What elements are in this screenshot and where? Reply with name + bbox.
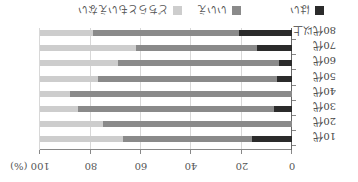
y-tick [292, 115, 296, 116]
x-tick [241, 150, 242, 154]
bar-8 [40, 30, 292, 36]
category-label: 40代 [296, 85, 336, 100]
category-label: 60代 [296, 55, 336, 70]
legend: はい いいえ どちらともいえない [0, 2, 358, 18]
bar-2 [40, 121, 292, 127]
bar-segment [252, 136, 292, 142]
bar-1 [40, 136, 292, 142]
y-tick [292, 39, 296, 40]
x-tick-label: 60 [135, 161, 148, 172]
category-label: 50代 [296, 70, 336, 85]
bar-segment [257, 45, 292, 51]
y-tick [292, 130, 296, 131]
category-label: 70代 [296, 39, 336, 54]
bar-6 [40, 61, 292, 67]
legend-swatch-yes [315, 6, 324, 15]
x-tick-label: 100 (%) [10, 161, 50, 172]
legend-label-neutral: どちらともいえない [78, 3, 168, 18]
category-label: 30代 [296, 100, 336, 115]
x-tick [190, 150, 191, 154]
x-tick-label: 20 [236, 161, 249, 172]
y-tick [292, 70, 296, 71]
y-tick [292, 85, 296, 86]
x-tick [39, 150, 40, 154]
plot-area: 0 20 40 60 80 100 (%) 10代20代30代40代50代60代… [40, 28, 292, 150]
bar-4 [40, 91, 292, 97]
y-tick [292, 145, 296, 146]
x-tick-label: 80 [85, 161, 98, 172]
category-label: 10代 [296, 130, 336, 145]
category-label: 80代以上 [296, 24, 336, 39]
bar-3 [40, 106, 292, 112]
bar-segment [40, 76, 98, 82]
x-axis: 0 20 40 60 80 100 (%) [40, 149, 292, 150]
bar-segment [239, 30, 292, 36]
bar-segment [277, 76, 292, 82]
category-label: 20代 [296, 115, 336, 130]
stacked-bar-chart: はい いいえ どちらともいえない 0 20 40 60 80 100 [0, 0, 358, 182]
x-tick [90, 150, 91, 154]
legend-label-no: いいえ [197, 3, 227, 18]
x-tick [140, 150, 141, 154]
bar-5 [40, 76, 292, 82]
bar-segment [40, 45, 136, 51]
bar-segment [40, 61, 118, 67]
x-tick [291, 150, 292, 154]
bar-segment [98, 76, 277, 82]
legend-swatch-no [232, 6, 241, 15]
bar-segment [40, 136, 123, 142]
bar-segment [103, 121, 292, 127]
legend-item-no: いいえ [197, 3, 241, 18]
legend-item-neutral: どちらともいえない [78, 3, 182, 18]
bar-segment [70, 91, 292, 97]
bar-segment [136, 45, 257, 51]
bar-segment [123, 136, 252, 142]
bar-segment [40, 91, 70, 97]
legend-item-yes: はい [290, 3, 324, 18]
bar-segment [78, 106, 275, 112]
legend-swatch-neutral [173, 6, 182, 15]
y-tick [292, 54, 296, 55]
bar-segment [274, 106, 292, 112]
bar-segment [40, 121, 103, 127]
bar-segment [40, 106, 78, 112]
y-tick [292, 100, 296, 101]
x-tick-label: 0 [289, 161, 295, 172]
x-tick-label: 40 [185, 161, 198, 172]
bar-segment [118, 61, 279, 67]
bar-7 [40, 45, 292, 51]
legend-label-yes: はい [290, 3, 310, 18]
bar-segment [93, 30, 239, 36]
bar-segment [279, 61, 292, 67]
bar-segment [40, 30, 93, 36]
